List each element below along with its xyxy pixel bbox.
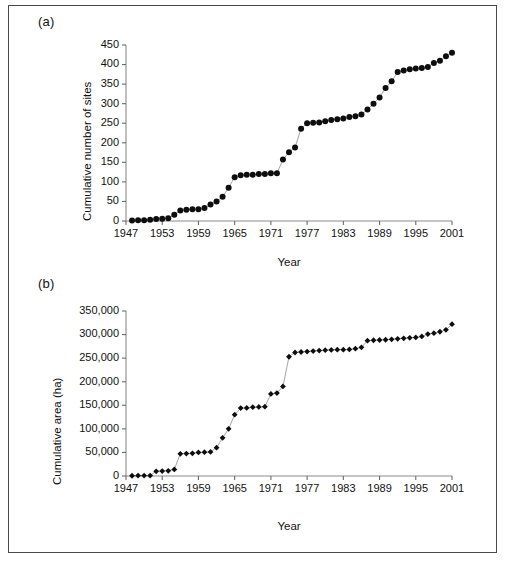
y-tick-label: 300,000 <box>79 327 119 339</box>
x-tick-label: 1947 <box>114 482 138 494</box>
data-point-marker <box>208 202 214 208</box>
data-point-marker <box>304 349 310 355</box>
y-tick-label: 100 <box>101 175 119 187</box>
y-tick-label: 400 <box>101 57 119 69</box>
y-tick-label: 350,000 <box>79 304 119 316</box>
y-tick-label: 150 <box>101 155 119 167</box>
y-tick-label: 50 <box>107 194 119 206</box>
panel-b-x-axis-title: Year <box>126 520 452 532</box>
y-tick-label: 450 <box>101 38 119 50</box>
data-point-marker <box>196 450 202 456</box>
data-point-marker <box>129 218 135 224</box>
data-point-marker <box>401 67 407 73</box>
panel-a-label: (a) <box>38 14 55 29</box>
data-point-marker <box>395 69 401 75</box>
data-point-marker <box>304 120 310 126</box>
x-tick-label: 1989 <box>367 227 391 239</box>
data-point-marker <box>425 331 431 337</box>
panel-b-label: (b) <box>38 276 55 291</box>
data-point-marker <box>322 347 328 353</box>
data-point-marker <box>419 65 425 71</box>
data-point-marker <box>129 473 135 479</box>
panel-a-x-axis-title: Year <box>126 256 452 268</box>
x-tick-label: 2001 <box>440 227 464 239</box>
data-point-marker <box>292 350 298 356</box>
data-point-marker <box>292 144 298 150</box>
panel-b-y-axis-title: Cumulative area (ha) <box>51 378 63 485</box>
data-point-marker <box>352 113 358 119</box>
data-point-marker <box>322 118 328 124</box>
panel-a: (a) Cumulative number of sites Year 0501… <box>9 6 496 268</box>
data-point-marker <box>328 117 334 123</box>
data-point-marker <box>371 337 377 343</box>
x-tick-label: 1995 <box>404 227 428 239</box>
data-point-marker <box>377 94 383 100</box>
data-point-marker <box>159 216 165 222</box>
data-point-marker <box>244 405 250 411</box>
data-point-marker <box>220 435 226 441</box>
y-tick-label: 200,000 <box>79 375 119 387</box>
data-point-marker <box>153 468 159 474</box>
y-tick-label: 0 <box>113 469 119 481</box>
data-point-marker <box>383 337 389 343</box>
data-point-marker <box>268 170 274 176</box>
panel-b-plot-area: 050,000100,000150,000200,000250,000300,0… <box>126 311 460 502</box>
data-point-marker <box>153 216 159 222</box>
data-point-marker <box>201 205 207 211</box>
data-point-marker <box>262 404 268 410</box>
data-point-marker <box>159 468 165 474</box>
y-tick-label: 350 <box>101 77 119 89</box>
data-point-marker <box>214 198 220 204</box>
data-point-marker <box>437 329 443 335</box>
y-tick-label: 250 <box>101 116 119 128</box>
data-point-marker <box>165 215 171 221</box>
x-tick-label: 1959 <box>186 227 210 239</box>
data-point-marker <box>298 349 304 355</box>
x-tick-label: 1995 <box>404 482 428 494</box>
y-tick-label: 250,000 <box>79 351 119 363</box>
data-point-marker <box>135 217 141 223</box>
data-point-marker <box>202 449 208 455</box>
y-tick-label: 150,000 <box>79 398 119 410</box>
data-point-marker <box>383 85 389 91</box>
panel-b: (b) Cumulative area (ha) Year 050,000100… <box>9 268 496 552</box>
series-line <box>132 53 452 221</box>
data-point-marker <box>443 53 449 59</box>
data-point-marker <box>189 206 195 212</box>
data-point-marker <box>425 64 431 70</box>
data-point-marker <box>286 149 292 155</box>
x-tick-label: 1959 <box>186 482 210 494</box>
data-point-marker <box>165 468 171 474</box>
x-tick-label: 1977 <box>295 227 319 239</box>
data-point-marker <box>340 116 346 122</box>
x-tick-label: 1977 <box>295 482 319 494</box>
x-tick-label: 1983 <box>331 227 355 239</box>
data-point-marker <box>364 107 370 113</box>
x-tick-label: 1953 <box>150 482 174 494</box>
x-tick-label: 1965 <box>222 227 246 239</box>
x-tick-label: 1983 <box>331 482 355 494</box>
data-point-marker <box>334 347 340 353</box>
data-point-marker <box>232 174 238 180</box>
data-point-marker <box>280 157 286 163</box>
data-point-marker <box>358 112 364 118</box>
figure-frame: (a) Cumulative number of sites Year 0501… <box>8 5 497 553</box>
data-point-marker <box>431 330 437 336</box>
data-point-marker <box>340 347 346 353</box>
data-point-marker <box>250 404 256 410</box>
data-point-marker <box>268 391 274 397</box>
data-point-marker <box>208 449 214 455</box>
data-point-marker <box>177 451 183 457</box>
y-tick-label: 100,000 <box>79 422 119 434</box>
data-point-marker <box>401 335 407 341</box>
y-tick-label: 0 <box>113 214 119 226</box>
data-point-marker <box>274 170 280 176</box>
x-tick-label: 2001 <box>440 482 464 494</box>
data-point-marker <box>449 50 455 56</box>
y-tick-label: 200 <box>101 136 119 148</box>
data-point-marker <box>316 348 322 354</box>
data-point-marker <box>437 58 443 64</box>
data-point-marker <box>195 206 201 212</box>
y-tick-label: 50,000 <box>85 445 119 457</box>
data-point-marker <box>413 335 419 341</box>
